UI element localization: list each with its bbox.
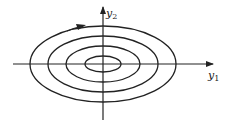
y1-axis-label: y1 <box>207 69 219 83</box>
phase-portrait-diagram: y2 y1 <box>0 0 229 133</box>
y2-axis-label: y2 <box>105 7 117 21</box>
